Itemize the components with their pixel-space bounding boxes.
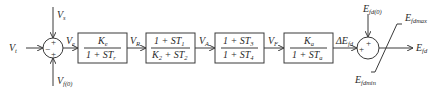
summing-junction-2: + + — [357, 37, 379, 59]
svg-text:K2 + ST2: K2 + ST2 — [151, 49, 188, 61]
sign-bottom: + — [51, 49, 56, 59]
label-efdmax: Efdmax — [404, 12, 427, 24]
exciter-block-diagram: + − + Vt Vs Vf(0) Ve Ke 1 + STr VR 1 + S… — [0, 0, 444, 95]
sign-top: + — [51, 37, 56, 47]
label-vf0: Vf(0) — [57, 75, 73, 88]
sign-top-2: + — [366, 38, 371, 48]
block-amplifier: Ka 1 + STa — [284, 33, 333, 63]
label-efd0: Efd(0) — [362, 3, 382, 16]
label-vs: Vs — [57, 9, 66, 21]
svg-text:1 + ST1: 1 + ST1 — [154, 35, 185, 47]
svg-text:1 + STr: 1 + STr — [86, 49, 116, 61]
block-regulator: Ke 1 + STr — [78, 33, 127, 63]
label-vr: VR — [130, 35, 140, 47]
label-delta-efd: ΔEfd — [335, 35, 354, 47]
svg-text:1 + STa: 1 + STa — [292, 49, 323, 61]
label-efd: Efd — [415, 42, 428, 54]
block-lead-lag-1: 1 + ST1 K2 + ST2 — [146, 33, 195, 63]
label-vt: Vt — [9, 42, 17, 54]
sign-left-2: + — [359, 44, 364, 54]
svg-text:1 + ST3: 1 + ST3 — [223, 35, 254, 47]
svg-text:1 + ST4: 1 + ST4 — [223, 49, 254, 61]
label-ve: Ve — [66, 35, 75, 47]
label-efdmin: Efdmin — [354, 74, 376, 86]
label-vf: VF — [268, 35, 279, 47]
block-lead-lag-2: 1 + ST3 1 + ST4 — [215, 33, 264, 63]
sign-left: − — [45, 44, 50, 54]
summing-junction-1: + − + — [43, 37, 63, 59]
label-va: VA — [199, 35, 209, 47]
